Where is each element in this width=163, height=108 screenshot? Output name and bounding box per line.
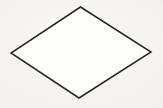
drawing-surface (0, 0, 163, 108)
drawing-canvas: A hand-drawn rhombus (diamond) outline i… (0, 0, 163, 108)
